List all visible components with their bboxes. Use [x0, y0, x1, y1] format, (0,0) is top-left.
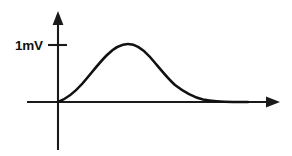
x-axis-arrow-icon — [266, 97, 280, 108]
signal-waveform-curve — [58, 44, 248, 102]
y-axis-arrow-icon — [53, 11, 64, 25]
y-axis-label-1mv: 1mV — [15, 38, 43, 53]
waveform-figure: 1mV — [0, 0, 292, 156]
waveform-plot: 1mV — [0, 0, 292, 156]
